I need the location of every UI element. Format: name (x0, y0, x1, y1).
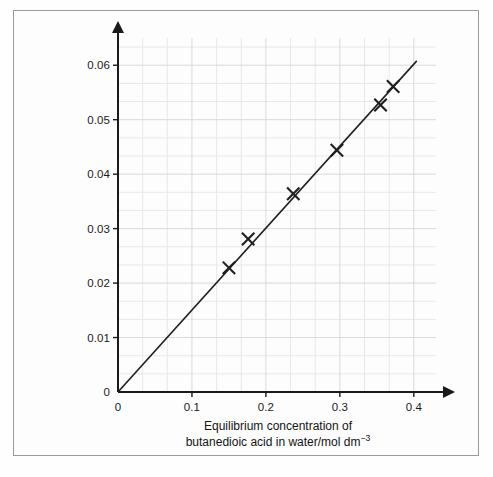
x-tick-label: 0.2 (258, 401, 274, 413)
y-tick-label: 0.02 (58, 277, 110, 289)
y-tick-label: 0.01 (58, 332, 110, 344)
x-axis-title-line2: butanedioic acid in water/mol dm−3 (118, 434, 438, 450)
x-axis-title: Equilibrium concentration of butanedioic… (118, 418, 438, 450)
data-point-marker-x (331, 144, 343, 156)
x-axis-title-line2-text: butanedioic acid in water/mol dm (186, 435, 361, 449)
y-tick-label: 0.04 (58, 168, 110, 180)
x-tick-label: 0.3 (332, 401, 348, 413)
y-tick-label: 0.06 (58, 59, 110, 71)
x-axis-title-line1: Equilibrium concentration of (118, 418, 438, 434)
x-tick-label: 0.4 (406, 401, 422, 413)
data-point-marker-x (242, 233, 254, 245)
best-fit-line (118, 61, 417, 392)
x-tick-label: 0 (115, 401, 122, 413)
y-tick-label: 0.03 (58, 223, 110, 235)
y-tick-label: 0.05 (58, 114, 110, 126)
y-tick-label: 0 (58, 386, 110, 398)
x-tick-label: 0.1 (184, 401, 200, 413)
data-point-marker-x (223, 262, 235, 274)
figure-root: 00.10.20.30.4 00.010.020.030.040.050.06 … (0, 0, 493, 477)
x-axis-title-exponent: −3 (360, 433, 370, 443)
